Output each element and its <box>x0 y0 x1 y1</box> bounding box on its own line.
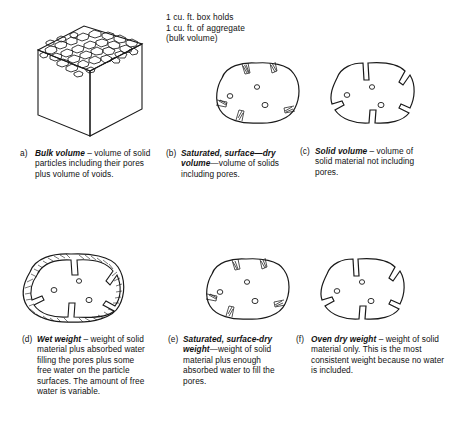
caption-c-label: (c) <box>300 146 314 156</box>
aggregate-volume-weight-figure: 1 cu. ft. box holds 1 cu. ft. of aggrega… <box>0 0 458 436</box>
caption-f: (f) Oven dry weight – weight of solid ma… <box>296 334 452 376</box>
caption-d-body: Wet weight – weight of solid material pl… <box>37 334 150 396</box>
caption-a: a) Bulk volume – volume of solid particl… <box>20 148 152 179</box>
caption-d: (d) Wet weight – weight of solid materia… <box>22 334 150 396</box>
solid-volume-particle <box>323 58 423 136</box>
caption-c: (c) Solid volume – volume of solid mater… <box>300 146 420 177</box>
caption-b-body: Saturated, surface—dry volume—volume of … <box>181 148 290 179</box>
caption-e-body: Saturated, surface-dry weight—weight of … <box>183 334 288 386</box>
caption-e-label: (e) <box>168 334 182 344</box>
oven-dry-weight-particle <box>313 254 413 330</box>
caption-a-term: Bulk volume <box>35 148 85 158</box>
caption-e: (e) Saturated, surface-dry weight—weight… <box>168 334 288 386</box>
caption-d-label: (d) <box>22 334 36 344</box>
caption-b-label: (b) <box>166 148 180 158</box>
saturated-surface-dry-volume-particle <box>208 58 308 136</box>
cube-annotation: 1 cu. ft. box holds 1 cu. ft. of aggrega… <box>166 12 245 44</box>
caption-d-term: Wet weight <box>37 334 81 344</box>
caption-c-body: Solid volume – volume of solid material … <box>315 146 420 177</box>
caption-b: (b) Saturated, surface—dry volume—volume… <box>166 148 290 179</box>
caption-c-term: Solid volume <box>315 146 367 156</box>
caption-a-label: a) <box>20 148 34 158</box>
aggregate-filled-cube <box>26 12 152 136</box>
saturated-surface-dry-weight-particle <box>198 254 298 330</box>
caption-f-body: Oven dry weight – weight of solid materi… <box>311 334 452 376</box>
caption-f-label: (f) <box>296 334 310 344</box>
wet-weight-particle <box>18 248 136 330</box>
caption-a-body: Bulk volume – volume of solid particles … <box>35 148 152 179</box>
caption-f-term: Oven dry weight <box>311 334 376 344</box>
